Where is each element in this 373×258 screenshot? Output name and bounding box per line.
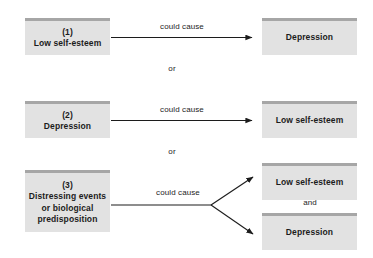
source-box-2-number: (2) (44, 110, 91, 121)
source-box-3-text: (3) Distressing events or biological pre… (26, 180, 109, 225)
connector-label-2: or (152, 147, 192, 156)
source-box-3-label-line2: or biological (29, 203, 106, 214)
target-box-2-label: Low self-esteem (273, 115, 347, 126)
source-box-2-text: (2) Depression (41, 110, 94, 132)
source-box-1: (1) Low self-esteem (25, 18, 110, 55)
target-box-3a: Low self-esteem (262, 163, 357, 200)
source-box-2-label: Depression (44, 121, 91, 131)
arrow-row-3-lower (211, 205, 253, 234)
source-box-3-label-line1: Distressing events (29, 191, 106, 202)
source-box-3-number: (3) (29, 180, 106, 191)
source-box-2: (2) Depression (25, 101, 110, 138)
arrow-row-3-upper (211, 177, 253, 205)
source-box-1-number: (1) (34, 27, 102, 38)
edge-label-1: could cause (147, 22, 217, 31)
target-box-3b: Depression (262, 213, 357, 250)
source-box-3: (3) Distressing events or biological pre… (25, 170, 110, 232)
causality-flow-diagram: (1) Low self-esteem Depression could cau… (0, 0, 373, 258)
source-box-1-label: Low self-esteem (34, 38, 102, 48)
target-box-1-label: Depression (283, 32, 336, 43)
source-box-1-text: (1) Low self-esteem (31, 27, 105, 49)
target-box-3a-label: Low self-esteem (273, 177, 347, 188)
target-box-3b-label: Depression (283, 227, 336, 238)
connector-label-1: or (152, 64, 192, 73)
edge-label-2: could cause (147, 105, 217, 114)
target-connector-and: and (290, 198, 330, 207)
target-box-1: Depression (262, 18, 357, 55)
target-box-2: Low self-esteem (262, 101, 357, 138)
source-box-3-label-line3: predisposition (29, 214, 106, 225)
edge-label-3: could cause (143, 188, 213, 197)
